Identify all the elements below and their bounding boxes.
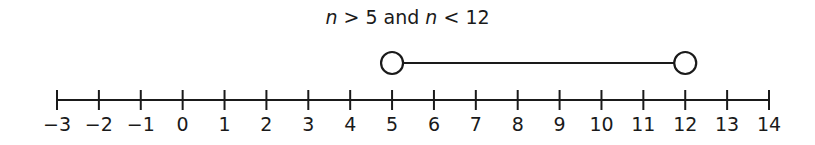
open-circle-end-icon (674, 52, 696, 74)
tick-label: 13 (715, 113, 739, 135)
tick-label: 9 (554, 113, 566, 135)
tick-label: 6 (428, 113, 440, 135)
tick-label: 3 (302, 113, 314, 135)
tick-label: −2 (85, 113, 113, 135)
tick-label: 5 (386, 113, 398, 135)
tick-label: 11 (631, 113, 655, 135)
tick-label: 7 (470, 113, 482, 135)
tick-label: 2 (260, 113, 272, 135)
tick-label: 1 (218, 113, 230, 135)
tick-label: 12 (673, 113, 697, 135)
tick-label: 10 (589, 113, 613, 135)
tick-label: 14 (757, 113, 781, 135)
tick-label: 0 (177, 113, 189, 135)
tick-labels: −3−2−101234567891011121314 (43, 113, 781, 135)
number-line: −3−2−101234567891011121314 (0, 0, 815, 145)
tick-label: −1 (127, 113, 155, 135)
open-circle-start-icon (381, 52, 403, 74)
tick-label: −3 (43, 113, 71, 135)
solution-interval (381, 52, 696, 74)
tick-label: 4 (344, 113, 356, 135)
tick-label: 8 (512, 113, 524, 135)
